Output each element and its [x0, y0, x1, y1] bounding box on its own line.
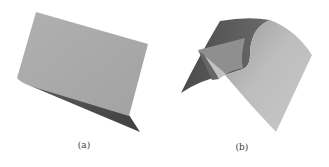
surface-a: [17, 12, 148, 132]
caption-b: (b): [236, 143, 249, 152]
surface-a-light-face: [17, 12, 148, 116]
figure-graphics: [0, 0, 329, 167]
caption-a: (a): [78, 141, 90, 150]
figure: (a) (b): [0, 0, 329, 167]
surface-b: [181, 18, 312, 132]
